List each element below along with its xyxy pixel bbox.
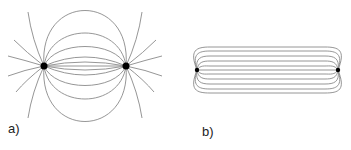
panel-b-left-charge-icon xyxy=(195,68,199,72)
figure-canvas xyxy=(0,0,351,150)
panel-b-label: b) xyxy=(202,124,214,139)
panel-a-field-lines xyxy=(8,11,162,122)
panel-b-field-lines xyxy=(194,47,342,93)
panel-a-label: a) xyxy=(8,121,20,136)
panel-b-right-charge-icon xyxy=(336,68,340,72)
panel-a-left-charge-icon xyxy=(41,63,48,70)
panel-a-right-charge-icon xyxy=(123,63,130,70)
